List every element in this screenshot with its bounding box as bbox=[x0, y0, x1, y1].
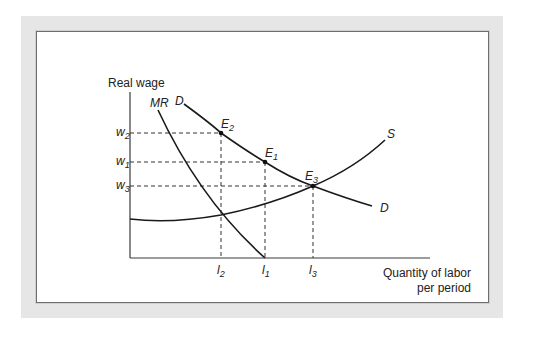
e1-label: E1 bbox=[265, 146, 278, 162]
axes bbox=[130, 92, 430, 258]
s-label: S bbox=[387, 127, 395, 141]
labor-market-diagram: Real wage Quantity of labor per period M… bbox=[0, 0, 538, 352]
e3-label: E3 bbox=[305, 169, 318, 185]
supply-curve bbox=[130, 140, 385, 221]
l2-tick: l2 bbox=[217, 263, 225, 279]
guide-lines bbox=[130, 133, 313, 258]
d-label-end: D bbox=[380, 201, 389, 215]
w1-tick: w1 bbox=[116, 154, 130, 170]
y-axis-label: Real wage bbox=[108, 76, 165, 90]
e1-point bbox=[263, 160, 268, 165]
x-axis-label-line1: Quantity of labor bbox=[383, 266, 471, 280]
mr-curve bbox=[158, 110, 265, 258]
e2-label: E2 bbox=[221, 117, 234, 133]
x-axis-label-line2: per period bbox=[417, 281, 471, 295]
mr-label: MR bbox=[150, 96, 169, 110]
e2-point bbox=[219, 131, 224, 136]
l3-tick: l3 bbox=[309, 263, 317, 279]
curves bbox=[130, 104, 385, 258]
l1-tick: l1 bbox=[262, 263, 270, 279]
w3-tick: w3 bbox=[116, 178, 130, 194]
w2-tick: w2 bbox=[116, 125, 130, 141]
d-label-top: D bbox=[175, 94, 184, 108]
